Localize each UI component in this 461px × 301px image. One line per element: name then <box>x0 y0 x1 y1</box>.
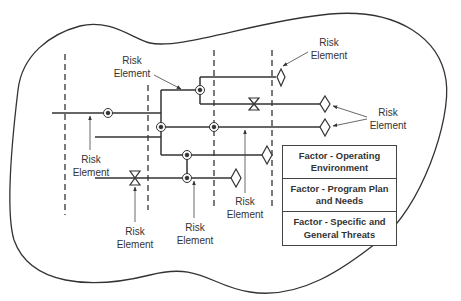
node-icon <box>157 123 166 132</box>
diamond-icon <box>320 96 330 112</box>
node-icon <box>183 174 192 183</box>
risk-label-top-left: RiskElement <box>114 55 151 79</box>
factor-label: and Needs <box>316 195 363 206</box>
factor-label: Factor - Operating <box>299 150 380 161</box>
node-icon <box>104 109 113 118</box>
factor-label: Factor - Program Plan <box>291 183 389 194</box>
diamond-icon <box>277 69 285 86</box>
risk-label-bottom-center: RiskElement <box>227 196 264 220</box>
risk-label-bottom-node: RiskElement <box>177 222 214 246</box>
valve-symbols <box>130 98 259 185</box>
node-icon <box>183 151 192 160</box>
factor-table: Factor - OperatingEnvironment Factor - P… <box>282 145 397 246</box>
factor-label: General Threats <box>304 229 375 240</box>
dashed-boundaries <box>65 50 272 215</box>
risk-label-top-right: RiskElement <box>311 37 348 61</box>
risk-label-right: RiskElement <box>370 107 407 131</box>
diamond-icon <box>320 119 330 136</box>
factor-label: Environment <box>311 162 368 173</box>
risk-label-bottom-bowtie: RiskElement <box>117 226 154 250</box>
risk-label-left: RiskElement <box>73 154 110 178</box>
node-icon <box>196 86 205 95</box>
factor-operating-environment: Factor - OperatingEnvironment <box>283 146 396 179</box>
diamond-icon <box>262 146 272 164</box>
factor-label: Factor - Specific and <box>293 216 385 227</box>
diamond-icon <box>231 169 241 187</box>
factor-threats: Factor - Specific andGeneral Threats <box>283 212 396 245</box>
factor-program-plan: Factor - Program Planand Needs <box>283 179 396 212</box>
node-icon <box>210 123 219 132</box>
